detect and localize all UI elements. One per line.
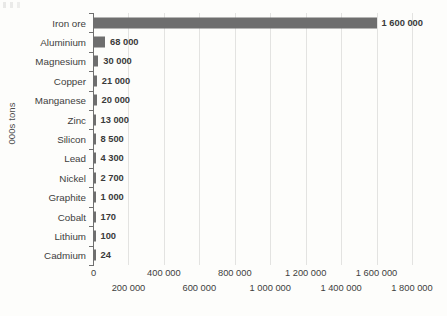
category-label: Cobalt (58, 211, 86, 222)
x-axis-line (93, 266, 412, 267)
bar-row: Iron ore1 600 000 (93, 13, 412, 32)
bar-row: Zinc13 000 (93, 110, 412, 129)
value-label: 68 000 (110, 37, 138, 47)
value-label: 100 (101, 231, 117, 241)
bar (93, 37, 105, 48)
x-axis-tick-label: 600 000 (183, 283, 217, 293)
y-axis-tick (89, 91, 94, 92)
x-axis-tick-label: 1 800 000 (391, 283, 432, 293)
bar-row: Nickel2 700 (93, 168, 412, 187)
category-label: Manganese (35, 95, 86, 106)
category-label: Graphite (48, 192, 86, 203)
bar-row: Lithium100 (93, 226, 412, 245)
bar-row: Aluminium68 000 (93, 32, 412, 51)
category-label: Magnesium (35, 56, 86, 67)
bar-row: Magnesium30 000 (93, 52, 412, 71)
x-axis-tick-label: 1 200 000 (285, 268, 326, 278)
category-label: Cadmium (44, 250, 86, 261)
y-axis-tick (89, 71, 94, 72)
value-label: 1 600 000 (382, 18, 423, 28)
y-axis-tick (89, 110, 94, 111)
x-axis-tick-label: 1 400 000 (320, 283, 361, 293)
x-axis-tick-label: 200 000 (112, 283, 146, 293)
plot-area: Iron ore1 600 000Aluminium68 000Magnesiu… (93, 13, 412, 265)
y-axis-tick (89, 187, 94, 188)
value-label: 4 300 (101, 153, 124, 163)
bar-row: Cobalt170 (93, 207, 412, 226)
y-axis-tick (89, 226, 94, 227)
value-label: 13 000 (101, 115, 129, 125)
category-label: Zinc (67, 114, 86, 125)
bar-row: Silicon8 500 (93, 129, 412, 148)
x-axis-tick-label: 1 000 000 (250, 283, 291, 293)
value-label: 1 000 (101, 192, 124, 202)
y-axis-tick (89, 52, 94, 53)
bar-row: Cadmium24 (93, 246, 412, 265)
scan-artifact (3, 2, 33, 8)
value-label: 21 000 (102, 76, 130, 86)
category-label: Iron ore (52, 17, 86, 28)
y-axis-tick (89, 265, 94, 266)
category-label: Lead (64, 153, 86, 164)
value-label: 8 500 (101, 134, 124, 144)
value-label: 170 (101, 212, 117, 222)
category-label: Copper (54, 75, 86, 86)
bar (93, 17, 377, 28)
y-axis-tick (89, 32, 94, 33)
value-label: 20 000 (102, 95, 130, 105)
x-axis-tick-label: 0 (91, 268, 96, 278)
y-axis-tick (89, 246, 94, 247)
category-label: Lithium (54, 230, 86, 241)
value-label: 2 700 (101, 173, 124, 183)
x-axis-tick-label: 800 000 (218, 268, 252, 278)
y-axis-tick (89, 207, 94, 208)
category-label: Silicon (57, 133, 86, 144)
bar-row: Manganese20 000 (93, 91, 412, 110)
y-axis-title: 000s tons (6, 89, 17, 159)
x-axis-tick-label: 1 600 000 (356, 268, 397, 278)
y-axis-tick (89, 13, 94, 14)
value-label: 30 000 (103, 56, 131, 66)
bar-row: Copper21 000 (93, 71, 412, 90)
gridline (412, 13, 413, 265)
y-axis-tick (89, 129, 94, 130)
category-label: Aluminium (40, 37, 86, 48)
value-label: 24 (101, 250, 111, 260)
chart-page: 000s tons Iron ore1 600 000Aluminium68 0… (0, 0, 447, 316)
category-label: Nickel (59, 172, 86, 183)
y-axis-tick (89, 149, 94, 150)
y-axis-tick (89, 168, 94, 169)
bar-row: Lead4 300 (93, 149, 412, 168)
x-axis-tick-label: 400 000 (147, 268, 181, 278)
bar-row: Graphite1 000 (93, 187, 412, 206)
